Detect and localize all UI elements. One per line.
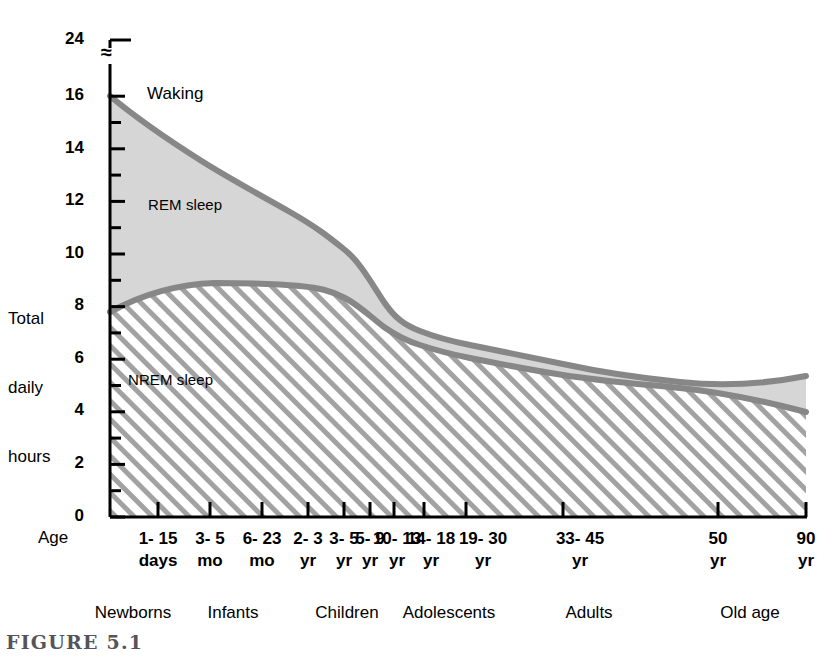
- x-tick-range-0: 1- 15: [139, 529, 178, 548]
- waking-area-label: Waking: [147, 84, 204, 104]
- x-tick-range-11: 90: [797, 529, 816, 548]
- x-tick-label-9: 33- 45 yr: [545, 528, 615, 572]
- figure-caption: FIGURE 5.1: [6, 631, 143, 653]
- nrem-sleep-area-label: NREM sleep: [128, 371, 213, 389]
- figure-sleep-across-lifespan: ≈ 24 16 14 12 10 8 6 4 2 0 Total daily h…: [0, 0, 838, 659]
- x-tick-range-9: 33- 45: [556, 529, 604, 548]
- x-tick-range-10: 50: [709, 529, 728, 548]
- x-tick-unit-2: mo: [249, 551, 275, 570]
- x-tick-label-8: 19- 30 yr: [448, 528, 518, 572]
- age-group-adults: Adults: [514, 603, 664, 623]
- x-tick-unit-9: yr: [572, 551, 588, 570]
- age-group-adolescents: Adolescents: [374, 603, 524, 623]
- y-axis-title-line-3: hours: [8, 446, 51, 469]
- y-tick-label-12: 12: [44, 190, 84, 210]
- y-tick-label-16: 16: [44, 85, 84, 105]
- x-axis-title: Age: [38, 528, 68, 548]
- y-axis-title-line-2: daily: [8, 377, 51, 400]
- nrem-sleep-area: [110, 283, 806, 517]
- age-group-old-age: Old age: [675, 603, 825, 623]
- x-tick-unit-0: days: [139, 551, 178, 570]
- x-tick-label-11: 90 yr: [771, 528, 838, 572]
- y-axis-title: Total daily hours: [8, 262, 51, 514]
- x-tick-label-10: 50 yr: [683, 528, 753, 572]
- y-tick-label-24: 24: [44, 29, 84, 49]
- x-tick-unit-11: yr: [798, 551, 814, 570]
- y-tick-label-10: 10: [44, 243, 84, 263]
- x-tick-unit-10: yr: [710, 551, 726, 570]
- y-axis-break-icon: ≈: [101, 41, 112, 65]
- x-tick-range-1: 3- 5: [195, 529, 224, 548]
- rem-sleep-area-label: REM sleep: [148, 196, 222, 214]
- y-axis-title-line-1: Total: [8, 308, 51, 331]
- x-tick-unit-8: yr: [475, 551, 491, 570]
- x-tick-unit-1: mo: [197, 551, 223, 570]
- x-tick-unit-7: yr: [423, 551, 439, 570]
- y-tick-label-14: 14: [44, 138, 84, 158]
- x-tick-range-8: 19- 30: [459, 529, 507, 548]
